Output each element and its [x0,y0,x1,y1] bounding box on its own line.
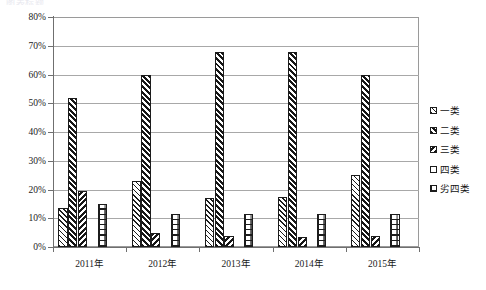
bar-三类-2015年 [371,236,380,248]
y-axis-tick-label: 40% [6,127,46,137]
legend-item-一类[interactable]: 一类 [430,101,486,121]
legend-label-三类: 三类 [440,145,460,155]
y-axis-tick [48,132,53,133]
x-axis-tick [126,247,127,252]
x-axis-tick [199,247,200,252]
bar-一类-2015年 [351,175,360,247]
y-axis-tick [48,218,53,219]
y-axis-tick [48,190,53,191]
legend-item-三类[interactable]: 三类 [430,140,486,160]
y-axis-labels: 80%70%60%50%40%30%20%10%0% [0,0,46,290]
y-axis-line [53,16,54,248]
y-axis-tick [48,46,53,47]
legend-label-四类: 四类 [440,165,460,175]
bar-chart: 80%70%60%50%40%30%20%10%0% 2011年2012年201… [0,0,486,290]
legend-swatch-四类 [430,166,437,173]
y-axis-tick [48,161,53,162]
x-axis-label-2012年: 2012年 [148,256,177,270]
legend-swatch-一类 [430,107,437,114]
legend-item-四类[interactable]: 四类 [430,160,486,180]
x-axis-tick [419,247,420,252]
legend-item-二类[interactable]: 二类 [430,121,486,141]
legend-label-劣四类: 劣四类 [440,184,470,194]
plot-area [53,17,419,247]
legend-item-劣四类[interactable]: 劣四类 [430,179,486,199]
legend-swatch-三类 [430,146,437,153]
x-axis-label-2011年: 2011年 [75,256,104,270]
x-axis-tick [53,247,54,252]
x-axis-line [53,247,420,248]
y-axis-tick [48,75,53,76]
y-axis-tick [48,17,53,18]
y-axis-tick-label: 10% [6,213,46,223]
y-axis-tick-label: 60% [6,70,46,80]
y-axis-tick-label: 70% [6,41,46,51]
x-axis-tick [273,247,274,252]
legend-label-一类: 一类 [440,106,460,116]
y-axis-tick-label: 80% [6,12,46,22]
legend-label-二类: 二类 [440,126,460,136]
x-axis-label-2014年: 2014年 [295,256,324,270]
y-axis-tick-label: 20% [6,185,46,195]
y-axis-tick-label: 0% [6,242,46,252]
y-axis-tick-label: 50% [6,98,46,108]
bar-二类-2015年 [361,75,370,248]
x-axis-label-2013年: 2013年 [222,256,251,270]
bar-劣四类-2015年 [390,214,399,247]
y-axis-tick-label: 30% [6,156,46,166]
legend-swatch-二类 [430,127,437,134]
legend-swatch-劣四类 [430,185,437,192]
x-axis-label-2015年: 2015年 [368,256,397,270]
x-axis-tick [346,247,347,252]
bar-group [53,17,419,247]
y-axis-tick [48,103,53,104]
chart-legend: 一类二类三类四类劣四类 [430,101,486,199]
